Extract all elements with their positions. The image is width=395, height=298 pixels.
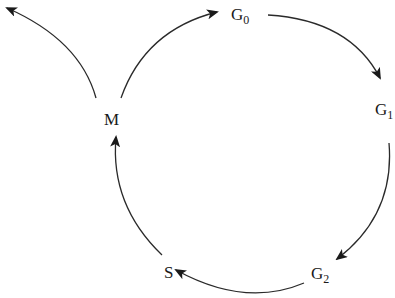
node-g0: G0	[231, 5, 249, 27]
arrow-g0-to-g1	[268, 15, 380, 78]
arrow-g2-to-s	[176, 270, 304, 293]
cell-cycle-diagram: M G0 G1 G2 S	[0, 0, 395, 298]
arrow-g1-to-g2	[337, 143, 390, 259]
arrow-s-to-m	[115, 137, 162, 255]
arrow-m-to-exit	[7, 8, 96, 98]
node-g2: G2	[311, 264, 329, 286]
node-s: S	[164, 263, 173, 282]
node-m: M	[104, 110, 119, 129]
arrow-m-to-g0	[121, 12, 217, 98]
node-g1: G1	[375, 100, 393, 122]
